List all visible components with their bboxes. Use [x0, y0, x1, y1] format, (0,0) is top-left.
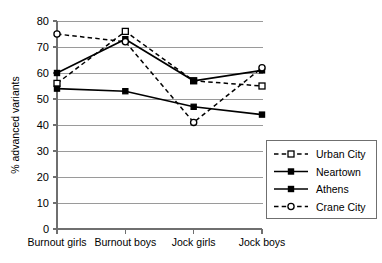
y-tick-label: 20: [37, 171, 49, 183]
data-point-marker-0-3: [259, 83, 265, 89]
y-axis-title: % advanced variants: [9, 76, 21, 173]
y-tick-label: 80: [37, 15, 49, 27]
legend-label: Neartown: [316, 166, 361, 178]
data-point-marker-1-1: [123, 89, 128, 94]
data-point-marker-3-1: [122, 39, 128, 45]
y-tick-label: 50: [37, 93, 49, 105]
data-point-marker-3-0: [54, 31, 60, 37]
y-tick-label: 70: [37, 41, 49, 53]
y-tick-label: 0: [43, 223, 49, 235]
x-tick-label: Jock boys: [239, 236, 286, 248]
data-point-marker-legend-3: [288, 203, 294, 209]
legend-label: Athens: [316, 183, 349, 195]
chart-container: 01020304050607080 Burnout girlsBurnout b…: [0, 0, 382, 263]
data-point-marker-0-1: [122, 28, 128, 34]
data-point-marker-3-2: [191, 119, 197, 125]
data-point-marker-2-0: [54, 70, 59, 75]
data-point-marker-1-3: [259, 112, 264, 117]
y-tick-label: 10: [37, 197, 49, 209]
data-point-marker-legend-2: [288, 186, 293, 191]
y-tick-label: 30: [37, 145, 49, 157]
line-chart: 01020304050607080 Burnout girlsBurnout b…: [0, 0, 382, 263]
data-point-marker-legend-0: [288, 151, 294, 157]
legend-label: Crane City: [316, 201, 366, 213]
x-tick-label: Burnout boys: [94, 236, 156, 248]
data-point-marker-legend-1: [288, 169, 293, 174]
data-point-marker-1-0: [54, 86, 59, 91]
x-tick-label: Burnout girls: [28, 236, 87, 248]
x-tick-label: Jock girls: [172, 236, 216, 248]
y-tick-label: 40: [37, 119, 49, 131]
data-point-marker-2-2: [191, 78, 196, 83]
y-tick-label: 60: [37, 67, 49, 79]
chart-legend: Urban CityNeartownAthensCrane City: [266, 140, 376, 218]
legend-label: Urban City: [316, 148, 366, 160]
data-point-marker-3-3: [259, 65, 265, 71]
data-point-marker-1-2: [191, 104, 196, 109]
